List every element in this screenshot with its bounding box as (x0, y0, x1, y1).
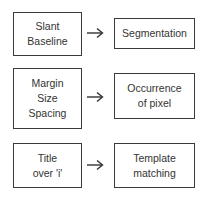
output-box-template-matching: Template matching (114, 143, 195, 188)
output-box-occurrence-of-pixel: Occurrence of pixel (114, 73, 195, 119)
box-text-line: of pixel (138, 96, 171, 111)
input-box-slant-baseline: Slant Baseline (13, 12, 82, 56)
box-text-line: Segmentation (122, 26, 187, 41)
output-box-segmentation: Segmentation (114, 18, 195, 49)
box-text-line: Occurrence (127, 81, 181, 96)
box-text-line: Template (133, 151, 176, 166)
box-text-line: Spacing (29, 106, 67, 121)
right-arrow-icon (86, 91, 104, 103)
input-box-margin-size-spacing: Margin Size Spacing (13, 68, 82, 129)
box-text-line: over 'i' (33, 166, 63, 181)
right-arrow-icon (86, 27, 104, 39)
right-arrow-icon (86, 159, 104, 171)
box-text-line: Title (38, 151, 57, 166)
box-text-line: Margin (31, 76, 63, 91)
box-text-line: Baseline (27, 34, 67, 49)
input-box-title-over-i: Title over 'i' (13, 143, 82, 188)
box-text-line: Slant (36, 19, 60, 34)
box-text-line: matching (133, 166, 176, 181)
box-text-line: Size (37, 91, 57, 106)
